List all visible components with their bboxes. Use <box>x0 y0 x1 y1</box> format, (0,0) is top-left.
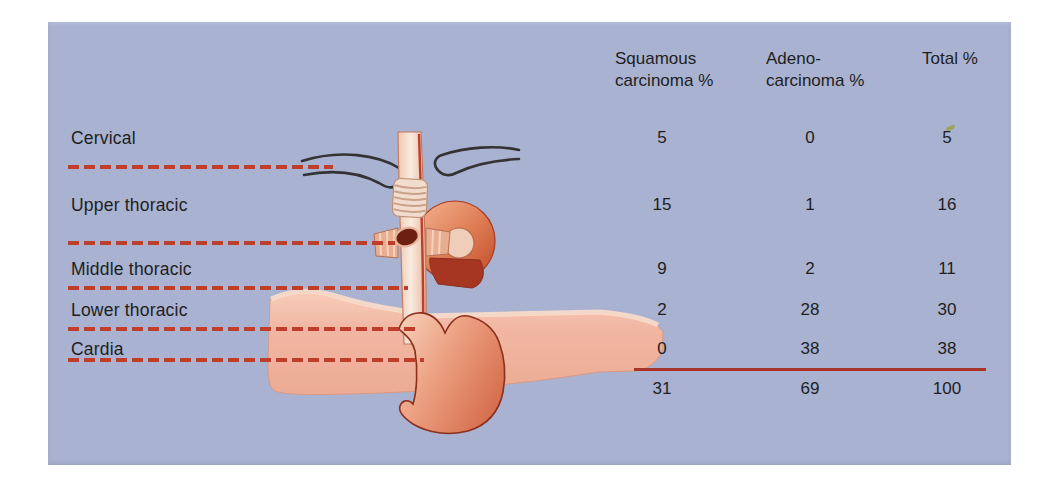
col-header-total-line1: Total % <box>922 48 978 70</box>
region-label-lower-thoracic: Lower thoracic <box>71 299 188 321</box>
region-label-middle-thoracic: Middle thoracic <box>71 258 192 280</box>
dashed-line-middle-thoracic <box>68 286 408 290</box>
total-overall: 100 <box>917 378 977 400</box>
cell-upper-squamous: 15 <box>632 194 692 216</box>
cell-cervical-adeno: 0 <box>780 127 840 149</box>
region-label-cardia: Cardia <box>71 338 124 360</box>
total-squamous: 31 <box>632 378 692 400</box>
dashed-line-cervical <box>68 165 333 169</box>
region-label-cervical: Cervical <box>71 127 136 149</box>
cell-cardia-adeno: 38 <box>780 338 840 360</box>
cell-cervical-squamous: 5 <box>632 127 692 149</box>
dashed-line-upper-thoracic <box>68 241 395 245</box>
cell-middle-adeno: 2 <box>780 258 840 280</box>
col-header-adeno: Adeno- carcinoma % <box>766 48 864 92</box>
col-header-squamous: Squamous carcinoma % <box>615 48 713 92</box>
col-header-total: Total % <box>922 48 978 70</box>
region-label-upper-thoracic: Upper thoracic <box>71 194 188 216</box>
col-header-squamous-line2: carcinoma % <box>615 70 713 92</box>
cell-upper-total: 16 <box>917 194 977 216</box>
cell-lower-squamous: 2 <box>632 299 692 321</box>
cell-cardia-total: 38 <box>917 338 977 360</box>
trachea-icon <box>392 178 428 218</box>
cell-cardia-squamous: 0 <box>632 338 692 360</box>
cell-middle-total: 11 <box>917 258 977 280</box>
col-header-adeno-line1: Adeno- <box>766 48 864 70</box>
figure-canvas: Cervical Upper thoracic Middle thoracic … <box>0 0 1049 487</box>
total-adeno: 69 <box>780 378 840 400</box>
col-header-squamous-line1: Squamous <box>615 48 713 70</box>
cell-lower-adeno: 28 <box>780 299 840 321</box>
cell-middle-squamous: 9 <box>632 258 692 280</box>
dashed-line-lower-thoracic <box>68 327 415 331</box>
cell-lower-total: 30 <box>917 299 977 321</box>
totals-rule <box>634 368 986 371</box>
col-header-adeno-line2: carcinoma % <box>766 70 864 92</box>
cell-upper-adeno: 1 <box>780 194 840 216</box>
